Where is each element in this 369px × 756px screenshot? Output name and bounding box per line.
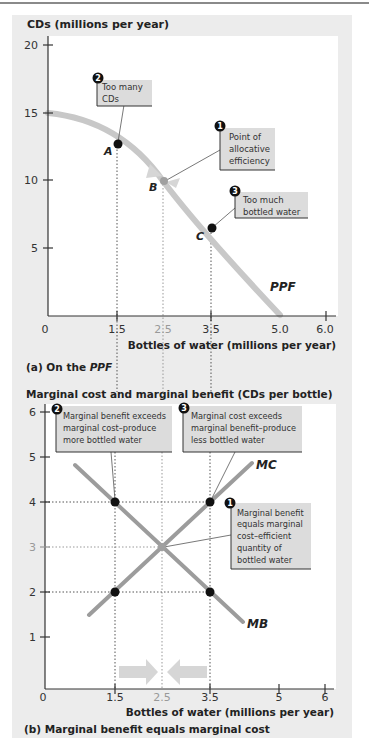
label-b: B: [149, 181, 157, 194]
svg-text:2: 2: [95, 74, 101, 83]
svg-text:marginal benefit–produce: marginal benefit–produce: [191, 423, 296, 433]
svg-text:1: 1: [217, 122, 223, 131]
y-ticks-b: 6 5 4 3 2 1: [29, 406, 36, 644]
svg-text:efficiency: efficiency: [229, 156, 270, 166]
point-c: [208, 224, 217, 233]
point-mb-3-5: [206, 588, 215, 597]
svg-text:5: 5: [276, 691, 283, 704]
svg-text:less bottled water: less bottled water: [191, 435, 265, 445]
figure-svg: CDs (millions per year) 20: [0, 0, 369, 756]
panel-title-a: (a) On the PPF: [26, 361, 113, 373]
svg-text:5.0: 5.0: [271, 323, 289, 336]
svg-text:10: 10: [24, 174, 38, 187]
svg-text:cost–efficient: cost–efficient: [237, 531, 292, 541]
svg-text:2.5: 2.5: [153, 691, 171, 704]
mc-label: MC: [256, 458, 277, 472]
svg-text:4: 4: [29, 496, 36, 509]
svg-text:20: 20: [24, 39, 38, 52]
svg-text:bottled water: bottled water: [237, 555, 293, 565]
x-ticks-b: 0 1.5 2.5 3.5 5 6: [40, 691, 329, 704]
svg-text:5: 5: [31, 242, 38, 255]
svg-text:2: 2: [54, 405, 60, 414]
point-mc-3-5: [206, 498, 215, 507]
svg-text:2: 2: [29, 586, 36, 599]
point-b: [160, 177, 168, 185]
svg-text:6: 6: [322, 691, 329, 704]
svg-text:6.0: 6.0: [316, 323, 334, 336]
point-mc-1-5: [111, 588, 120, 597]
label-c: C: [196, 230, 204, 243]
panel-title-b: (b) Marginal benefit equals marginal cos…: [24, 723, 270, 735]
panel-b: Marginal cost and marginal benefit (CDs …: [24, 388, 336, 735]
svg-text:3: 3: [181, 404, 187, 413]
svg-text:1: 1: [29, 631, 36, 644]
panel-a: CDs (millions per year) 20: [24, 18, 338, 392]
svg-text:1.5: 1.5: [106, 691, 124, 704]
y-axis-label-a: CDs (millions per year): [27, 18, 169, 31]
ppf-label: PPF: [270, 280, 297, 294]
svg-text:1.5: 1.5: [108, 323, 126, 336]
svg-text:15: 15: [24, 107, 38, 120]
svg-text:3.5: 3.5: [201, 691, 219, 704]
svg-text:1: 1: [227, 499, 233, 508]
svg-text:0: 0: [42, 323, 49, 336]
svg-text:bottled water: bottled water: [243, 207, 301, 217]
svg-text:5: 5: [29, 451, 36, 464]
svg-text:Marginal benefit: Marginal benefit: [237, 508, 304, 518]
x-axis-label-b: Bottles of water (millions per year): [126, 706, 334, 718]
svg-text:Too much: Too much: [242, 195, 284, 205]
svg-text:3: 3: [232, 187, 238, 196]
svg-text:3: 3: [29, 541, 36, 554]
plot-area-a: [48, 36, 338, 316]
svg-text:2.5: 2.5: [154, 323, 172, 336]
svg-text:0: 0: [40, 691, 47, 704]
svg-text:equals marginal: equals marginal: [237, 519, 303, 529]
svg-text:Marginal benefit exceeds: Marginal benefit exceeds: [63, 411, 166, 421]
point-mb-1-5: [111, 498, 120, 507]
svg-text:Point of: Point of: [229, 132, 262, 142]
point-efficient: [158, 543, 166, 551]
svg-text:quantity of: quantity of: [237, 543, 283, 553]
svg-text:6: 6: [29, 406, 36, 419]
svg-text:allocative: allocative: [229, 144, 270, 154]
y-axis-label-b: Marginal cost and marginal benefit (CDs …: [26, 388, 332, 400]
svg-text:Too many: Too many: [101, 82, 143, 92]
mb-label: MB: [247, 617, 268, 631]
label-a: A: [103, 145, 113, 158]
svg-text:marginal cost–produce: marginal cost–produce: [63, 423, 156, 433]
svg-text:Marginal cost exceeds: Marginal cost exceeds: [191, 411, 282, 421]
point-a: [114, 140, 123, 149]
y-ticks-a: 20 15 10 5: [24, 39, 38, 255]
svg-text:3.5: 3.5: [202, 323, 220, 336]
svg-text:more bottled water: more bottled water: [63, 435, 143, 445]
x-axis-label-a: Bottles of water (millions per year): [128, 339, 336, 351]
svg-text:CDs: CDs: [102, 94, 119, 104]
x-ticks-a: 0 1.5 2.5 3.5 5.0 6.0: [42, 323, 334, 336]
